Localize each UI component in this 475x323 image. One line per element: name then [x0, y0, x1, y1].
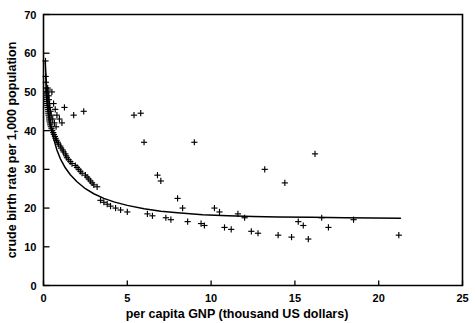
scatter-point — [61, 104, 67, 110]
scatter-point — [216, 209, 222, 215]
scatter-point — [248, 228, 254, 234]
y-tick-label: 60 — [24, 47, 36, 59]
scatter-point — [158, 178, 164, 184]
scatter-point — [396, 232, 402, 238]
x-tick-label: 15 — [289, 292, 301, 304]
scatter-point — [154, 172, 160, 178]
scatter-markers — [42, 58, 402, 242]
scatter-point — [81, 108, 87, 114]
scatter-point — [50, 100, 56, 106]
scatter-point — [312, 151, 318, 157]
y-tick-label: 10 — [24, 241, 36, 253]
scatter-point — [180, 205, 186, 211]
y-tick-label: 50 — [24, 86, 36, 98]
chart-canvas: 0510152025 010203040506070 per capita GN… — [0, 0, 475, 323]
scatter-point — [71, 112, 77, 118]
x-tick-label: 25 — [456, 292, 468, 304]
scatter-point — [141, 139, 147, 145]
scatter-point — [325, 224, 331, 230]
scatter-point — [185, 219, 191, 225]
y-tick-label: 70 — [24, 9, 36, 21]
scatter-point — [124, 209, 130, 215]
scatter-point — [275, 232, 281, 238]
scatter-point — [305, 236, 311, 242]
scatter-point — [288, 234, 294, 240]
x-tick-label: 20 — [373, 292, 385, 304]
x-axis-tick-labels: 0510152025 — [40, 292, 468, 304]
scatter-point — [295, 219, 301, 225]
fitted-curve — [45, 61, 400, 218]
scatter-point — [191, 139, 197, 145]
scatter-point — [255, 230, 261, 236]
scatter-point — [138, 110, 144, 116]
scatter-plot-figure: 0510152025 010203040506070 per capita GN… — [0, 0, 475, 323]
scatter-point — [300, 222, 306, 228]
y-axis-tick-labels: 010203040506070 — [24, 9, 36, 292]
x-axis-title: per capita GNP (thousand US dollars) — [126, 307, 349, 321]
scatter-point — [262, 166, 268, 172]
scatter-point — [174, 195, 180, 201]
x-tick-label: 5 — [124, 292, 130, 304]
scatter-point — [282, 180, 288, 186]
y-axis-title: crude birth rate per 1,000 population — [5, 42, 19, 259]
y-axis-ticks — [44, 15, 50, 286]
scatter-point — [211, 205, 217, 211]
x-tick-label: 0 — [40, 292, 46, 304]
y-tick-label: 20 — [24, 202, 36, 214]
scatter-point — [228, 226, 234, 232]
y-tick-label: 40 — [24, 125, 36, 137]
y-tick-label: 30 — [24, 163, 36, 175]
y-tick-label: 0 — [30, 280, 36, 292]
scatter-point — [131, 112, 137, 118]
plot-frame — [44, 15, 463, 286]
scatter-point — [221, 224, 227, 230]
x-tick-label: 10 — [205, 292, 217, 304]
